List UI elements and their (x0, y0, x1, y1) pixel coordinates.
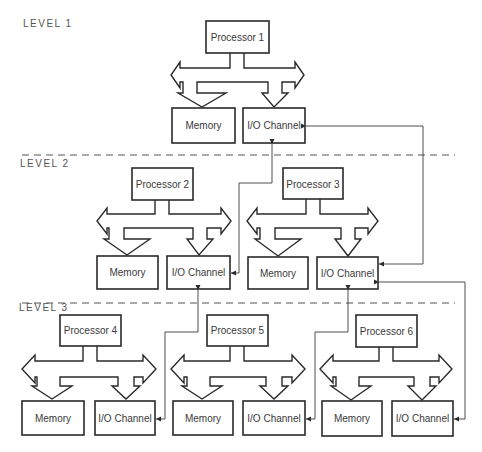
memory-4-label: Memory (35, 413, 71, 424)
bus-arrow-icon (97, 200, 231, 255)
level-1-label: LEVEL 1 (23, 18, 73, 29)
level-2-label: LEVEL 2 (20, 158, 70, 169)
bus-arrow-icon (171, 346, 305, 399)
processor-2-label: Processor 2 (136, 179, 190, 190)
processor-5-label: Processor 5 (211, 325, 265, 336)
io-channel-5-label: I/O Channel (247, 413, 300, 424)
bus-arrow-icon (320, 347, 452, 400)
node-processor-1: Processor 1 Memory I/O Channel (171, 21, 305, 143)
io-channel-3-label: I/O Channel (321, 268, 374, 279)
memory-3-label: Memory (260, 268, 296, 279)
bus-arrow-icon (247, 199, 378, 256)
bus-arrow-icon (22, 346, 156, 399)
memory-5-label: Memory (185, 413, 221, 424)
node-processor-5: Processor 5 Memory I/O Channel (171, 315, 305, 435)
io-channel-2-label: I/O Channel (172, 267, 225, 278)
memory-2-label: Memory (109, 267, 145, 278)
processor-1-label: Processor 1 (211, 32, 265, 43)
bus-arrow-icon (171, 53, 304, 107)
link-io1-io2 (231, 144, 272, 273)
hierarchical-processor-diagram: LEVEL 1 LEVEL 2 LEVEL 3 Processor 1 Memo… (0, 0, 482, 452)
node-processor-4: Processor 4 Memory I/O Channel (22, 315, 156, 435)
processor-3-label: Processor 3 (286, 179, 340, 190)
node-processor-2: Processor 2 Memory I/O Channel (97, 168, 231, 289)
link-io3-io5 (306, 290, 348, 419)
io-channel-1-label: I/O Channel (247, 120, 300, 131)
processor-6-label: Processor 6 (360, 326, 414, 337)
io-channel-6-label: I/O Channel (396, 413, 449, 424)
level-3-label: LEVEL 3 (19, 302, 69, 313)
memory-6-label: Memory (334, 413, 370, 424)
node-processor-6: Processor 6 Memory I/O Channel (320, 315, 453, 436)
link-io2-io4 (156, 290, 198, 419)
processor-4-label: Processor 4 (64, 325, 118, 336)
io-channel-4-label: I/O Channel (98, 413, 151, 424)
memory-1-label: Memory (185, 120, 221, 131)
node-processor-3: Processor 3 Memory I/O Channel (247, 168, 378, 289)
